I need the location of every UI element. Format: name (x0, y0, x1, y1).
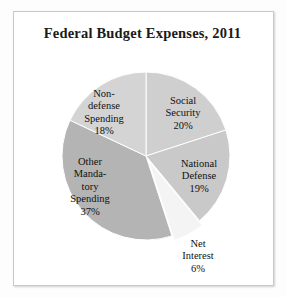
pie-chart-figure: Federal Budget Expenses, 2011 Social Sec… (0, 0, 286, 297)
slice-label-non-defense-spending: Non- defense Spending 18% (71, 88, 137, 138)
chart-title: Federal Budget Expenses, 2011 (13, 25, 272, 42)
slice-label-national-defense: National Defense 19% (164, 158, 234, 195)
slice-label-net-interest: Net Interest 6% (166, 238, 230, 275)
slice-label-social-security: Social Security 20% (150, 95, 216, 132)
slice-label-other-mandatory-spending: Other Manda- tory Spending 37% (57, 156, 123, 218)
